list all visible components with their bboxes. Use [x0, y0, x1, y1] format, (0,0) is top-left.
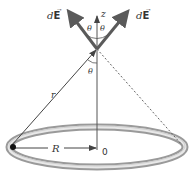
theta-upper-left-label: θ: [87, 24, 92, 33]
theta-lower-label: θ: [88, 67, 93, 76]
R-label: R: [51, 143, 60, 154]
r-label: r: [51, 90, 56, 100]
theta-arc-lower: [88, 60, 97, 63]
vec-bar-left: →: [56, 5, 63, 13]
dE-vector-left: [72, 16, 97, 49]
charge-element: [10, 144, 16, 150]
origin-label: 0: [102, 147, 108, 157]
vec-bar-right: →: [145, 5, 152, 13]
z-axis-label: z: [100, 9, 106, 19]
ring-field-diagram: dE → dE → z θ θ θ r R 0: [0, 0, 194, 183]
theta-upper-right-label: θ: [100, 24, 105, 33]
